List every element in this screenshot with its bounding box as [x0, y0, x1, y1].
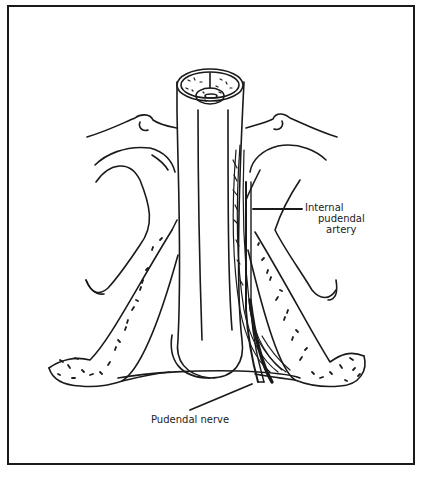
- label-pudendal-nerve: Pudendal nerve: [151, 414, 229, 425]
- left-pelvic-outline: [49, 115, 178, 387]
- label-line-2: pudendal: [305, 213, 365, 224]
- anatomy-drawing: [0, 0, 424, 481]
- label-line-1: Internal: [305, 202, 365, 213]
- label-internal-pudendal-artery: Internal pudendal artery: [305, 202, 365, 235]
- right-pelvic-outline: [246, 114, 365, 387]
- left-bone-texture: [58, 238, 162, 378]
- label-line-3: artery: [305, 224, 365, 235]
- nerve-leader-line: [190, 384, 252, 410]
